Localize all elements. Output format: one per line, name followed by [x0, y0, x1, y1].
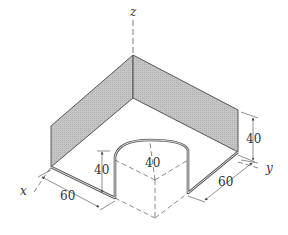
dim-arch-radius-label: 40 — [145, 156, 160, 170]
y-axis-label: y — [265, 161, 273, 175]
z-axis: z — [129, 5, 137, 55]
isometric-frame-diagram: z x y 60 60 40 — [0, 0, 288, 235]
left-wall-panel — [51, 55, 133, 167]
z-axis-label: z — [129, 5, 137, 19]
dim-arch-height-label: 40 — [94, 163, 109, 177]
dim-y-label: 60 — [218, 175, 233, 189]
dim-wall-height-label: 40 — [246, 132, 261, 146]
right-wall-panel — [133, 55, 238, 152]
x-axis-label: x — [20, 184, 27, 198]
diagram-canvas: z x y 60 60 40 — [0, 0, 288, 235]
dim-x-label: 60 — [60, 189, 75, 203]
